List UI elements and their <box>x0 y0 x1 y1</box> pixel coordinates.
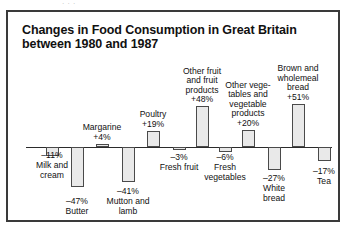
category-label-tea: Tea <box>298 177 346 187</box>
bar-white-bread <box>268 147 281 170</box>
value-label-brown-and-wholemeal-bread: +51% <box>275 93 321 103</box>
category-label-margarine: Margarine <box>76 123 128 133</box>
bar-poultry <box>147 131 160 147</box>
bar-fresh-fruit <box>173 147 186 150</box>
value-label-poultry: +19% <box>130 120 176 130</box>
category-label-white-bread: White bread <box>245 184 303 203</box>
value-label-margarine: +4% <box>79 133 125 143</box>
plot-area: –11%Milk and cream–47%Butter+4%Margarine… <box>8 12 338 220</box>
bar-margarine <box>96 144 109 147</box>
bar-mutton-and-lamb <box>122 147 135 182</box>
category-label-mutton-and-lamb: Mutton and lamb <box>99 197 157 216</box>
chart-screenshot: · · · Changes in Food Consumption in Gre… <box>0 0 346 230</box>
bar-brown-and-wholemeal-bread <box>292 104 305 147</box>
bar-other-vegetables-and-vegetable-products <box>242 130 255 147</box>
bar-other-fruit-and-fruit-products <box>196 106 209 147</box>
bar-tea <box>318 147 331 161</box>
category-label-fresh-vegetables: Fresh vegetables <box>196 163 254 182</box>
clipped-text-artifact: · · · <box>62 0 180 7</box>
category-label-brown-and-wholemeal-bread: Brown and wholemeal bread <box>269 64 327 93</box>
bar-butter <box>71 147 84 187</box>
chart-frame: Changes in Food Consumption in Great Bri… <box>6 10 340 222</box>
category-label-butter: Butter <box>51 207 103 217</box>
value-label-other-vegetables-and-vegetable-products: +20% <box>225 119 271 129</box>
category-label-poultry: Poultry <box>127 110 179 120</box>
